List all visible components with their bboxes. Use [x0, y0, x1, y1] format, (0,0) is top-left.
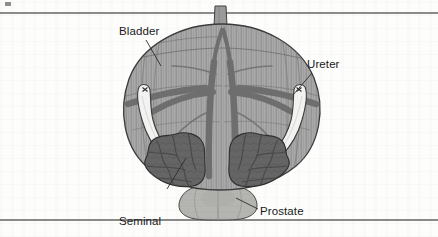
- label-ureter: Ureter: [307, 58, 340, 71]
- figure-container: Bladder Ureter Seminal vesicle Prostate: [0, 0, 438, 237]
- label-prostate: Prostate: [260, 205, 304, 218]
- label-bladder: Bladder: [119, 25, 159, 38]
- seminal-vesicle-left: [145, 133, 205, 188]
- urachus-stalk: [214, 6, 227, 26]
- label-seminal-vesicle: Seminal vesicle: [119, 190, 161, 237]
- anatomy-illustration: [0, 0, 438, 237]
- label-seminal-vesicle-line1: Seminal: [119, 215, 161, 228]
- seminal-vesicle-right: [229, 133, 289, 188]
